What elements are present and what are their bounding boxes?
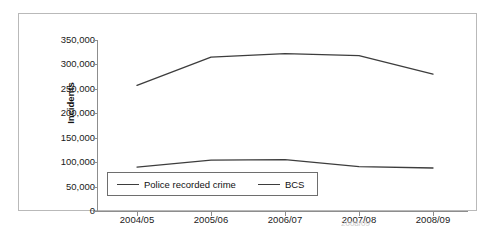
y-axis-tick-label: 150,000	[47, 133, 95, 143]
y-axis-tick-mark	[93, 64, 97, 65]
y-axis-tick-label: 350,000	[47, 35, 95, 45]
series-line	[137, 160, 433, 168]
y-axis-tick-mark	[93, 89, 97, 90]
legend-line-swatch-icon	[258, 184, 280, 185]
y-axis-tick-label: 50,000	[47, 182, 95, 192]
x-axis-tick-label: 2006/07	[250, 214, 320, 225]
x-axis-tick-label: 2004/05	[102, 214, 172, 225]
legend-entry: Police recorded crime	[117, 179, 236, 190]
y-axis-tick-mark	[93, 162, 97, 163]
chart-legend: Police recorded crimeBCS	[107, 172, 318, 196]
figure-frame: Incidents 350,000300,000250,000200,00015…	[18, 13, 477, 211]
clipped-bottom-text: 2008/09	[341, 219, 491, 228]
y-axis-tick-label: 250,000	[47, 84, 95, 94]
y-axis-tick-mark	[93, 187, 97, 188]
y-axis-tick-mark	[93, 40, 97, 41]
legend-label: BCS	[285, 179, 305, 190]
x-axis-tick-label: 2005/06	[176, 214, 246, 225]
y-axis-tick-label: 0	[47, 206, 95, 216]
y-axis-tick-label: 200,000	[47, 108, 95, 118]
legend-label: Police recorded crime	[144, 179, 236, 190]
series-line	[137, 54, 433, 86]
y-axis-tick-mark	[93, 113, 97, 114]
y-axis-tick-label: 100,000	[47, 157, 95, 167]
y-axis-tick-label: 300,000	[47, 59, 95, 69]
y-axis-tick-labels: 350,000300,000250,000200,000150,000100,0…	[47, 35, 95, 217]
y-axis-tick-mark	[93, 211, 97, 212]
legend-line-swatch-icon	[117, 184, 139, 185]
y-axis-tick-mark	[93, 138, 97, 139]
chart-screenshot: Incidents 350,000300,000250,000200,00015…	[0, 0, 494, 228]
legend-entry: BCS	[258, 179, 305, 190]
